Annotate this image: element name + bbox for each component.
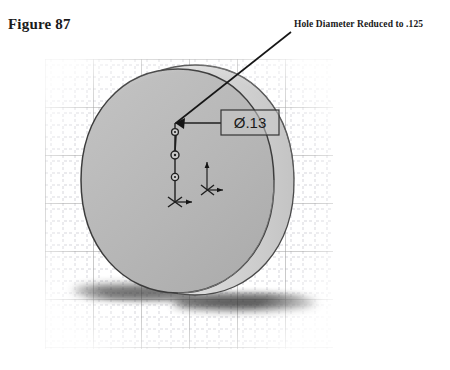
figure-caption: Figure 87 bbox=[8, 16, 71, 33]
cad-canvas: Ø.13 bbox=[45, 59, 333, 349]
cad-drawing-area: Ø.13 bbox=[45, 59, 333, 349]
figure-page: Figure 87 Hole Diameter Reduced to .125 bbox=[0, 0, 450, 370]
scan-vignette bbox=[45, 59, 333, 349]
annotation-label: Hole Diameter Reduced to .125 bbox=[294, 19, 423, 29]
